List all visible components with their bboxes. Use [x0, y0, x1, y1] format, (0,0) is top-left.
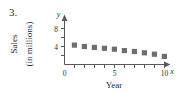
data-point	[92, 45, 97, 50]
data-point	[102, 46, 107, 51]
data-point	[122, 48, 127, 53]
x-axis-title: Year	[106, 80, 123, 90]
data-point	[162, 54, 167, 59]
data-point	[152, 52, 157, 57]
y-tick-label-4: 4	[54, 43, 58, 52]
data-point	[142, 50, 147, 55]
data-point	[132, 49, 137, 54]
data-point	[112, 47, 117, 52]
figure-container: 3. Sales (in millions) 4 8 0	[0, 0, 181, 92]
x-tick-label-10: 10	[161, 69, 169, 78]
data-point	[82, 44, 87, 49]
y-axis-arrow-icon	[62, 15, 68, 22]
x-tick-label-0: 0	[63, 69, 67, 78]
y-tick-label-8: 8	[54, 25, 58, 34]
data-point	[72, 43, 77, 48]
y-axis-variable-label: y	[56, 10, 61, 19]
x-axis-variable-label: x	[169, 67, 174, 76]
scatter-plot: 4 8 0 5 10 y x Year	[0, 0, 181, 92]
x-tick-label-5: 5	[113, 69, 117, 78]
